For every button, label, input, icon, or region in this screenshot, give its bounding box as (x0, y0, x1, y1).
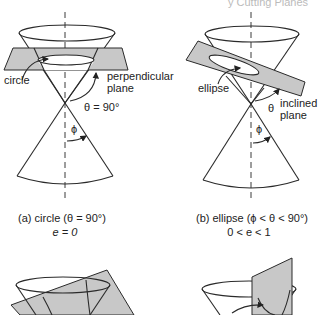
section-label: circle (4, 74, 30, 86)
phi-arc (67, 136, 86, 141)
caption-line-2: e = 0 (53, 226, 79, 238)
caption-line-1: (a) circle (θ = 90°) (18, 212, 106, 224)
caption-line-1: (b) ellipse (ϕ < θ < 90°) (196, 212, 308, 224)
cone-top-rim (19, 25, 115, 41)
circle-section (38, 55, 94, 65)
plane-label-1: perpendicular (107, 70, 174, 82)
partial-title: y Cutting Planes (228, 0, 309, 8)
angle-label: θ = 90° (84, 101, 119, 113)
half-angle-label: ϕ (256, 123, 262, 135)
cone-top-rim (205, 26, 299, 42)
panel-a-circle: circle perpendicular plane θ = 90° ϕ (a)… (4, 12, 174, 238)
angle-label: θ (268, 102, 274, 114)
panel-b-ellipse: ellipse inclined plane θ ϕ (b) ellipse (… (186, 12, 317, 238)
section-label: ellipse (198, 82, 229, 94)
plane-label-2: plane (107, 82, 134, 94)
half-angle-label: ϕ (71, 123, 77, 135)
plane-label-2: plane (280, 109, 307, 121)
phi-arc (253, 137, 270, 143)
plane-label-1: inclined (280, 97, 317, 109)
conic-sections-diagram: y Cutting Planes circle perpendicular pl… (0, 0, 321, 315)
panel-c-partial (11, 270, 134, 315)
caption-line-2: 0 < e < 1 (227, 226, 270, 238)
panel-d-partial (202, 258, 296, 315)
